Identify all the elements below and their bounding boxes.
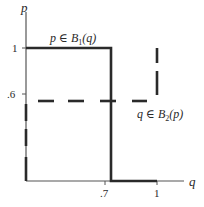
y-axis-label: p	[20, 0, 28, 15]
x-axis-label: q	[189, 174, 196, 189]
player1-curve-label: p ∈ B1(q)	[49, 31, 96, 47]
x-tick-label-0.7: .7	[100, 187, 109, 199]
y-tick-label-0.6: .6	[7, 88, 16, 100]
y-tick-label-1: 1	[12, 42, 18, 54]
player2-curve-label: q ∈ B2(p)	[137, 107, 183, 123]
axes	[22, 12, 184, 185]
best-response-diagram: p q 1 .6 .7 1 p ∈ B1(q) q ∈	[0, 0, 204, 207]
x-tick-label-1: 1	[154, 187, 160, 199]
